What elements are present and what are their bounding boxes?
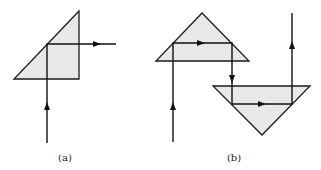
arrow-right-icon [93, 41, 101, 47]
prism-diagram: (a) (b) [0, 0, 321, 170]
panel-b: (b) [156, 13, 310, 163]
prism-b-upper [156, 13, 249, 61]
panel-label-b: (b) [227, 152, 241, 163]
arrow-up-icon [170, 102, 176, 110]
panel-label-a: (a) [58, 152, 72, 163]
panel-a: (a) [14, 11, 116, 163]
arrow-up-icon [44, 102, 50, 110]
prism-b-lower [213, 86, 310, 135]
arrow-down-icon [229, 75, 235, 83]
arrow-up-icon [289, 41, 295, 49]
